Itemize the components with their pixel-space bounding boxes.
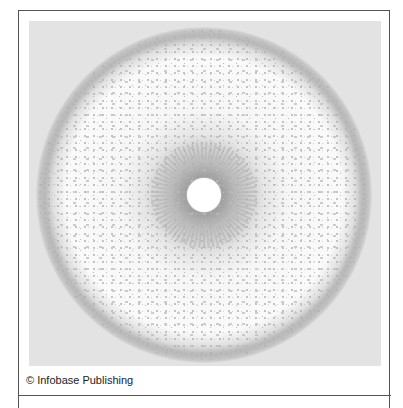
diffraction-image [29,21,381,366]
diffraction-pattern [29,21,381,366]
center-beam-stop [187,178,221,212]
image-credit: © Infobase Publishing [26,374,133,386]
caption-divider [18,395,391,396]
